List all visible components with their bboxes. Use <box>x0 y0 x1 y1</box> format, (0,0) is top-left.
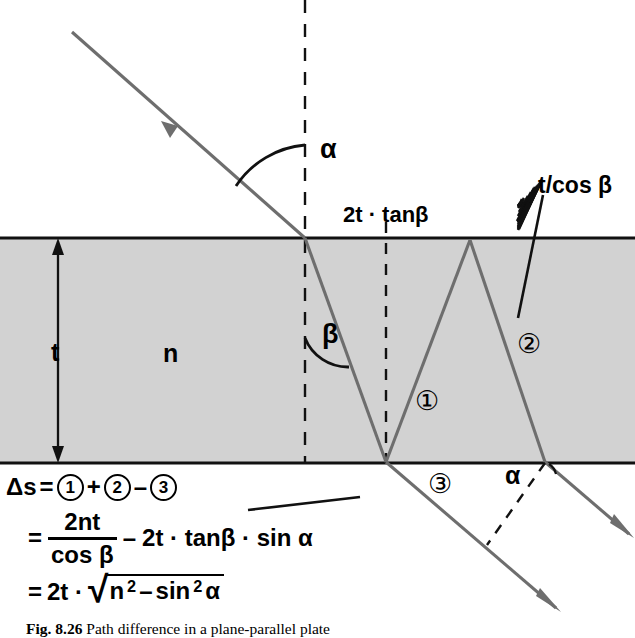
alpha-angle-arc <box>236 145 305 186</box>
radicand-n-exponent: 2 <box>127 577 136 596</box>
equals-sign-2: = <box>28 524 42 552</box>
fraction-bar <box>48 537 117 540</box>
square-root-expression: √ n 2 – sin 2 α <box>88 574 224 606</box>
path-in-plate-label: t/cos β <box>538 172 612 199</box>
exit-alpha-label: α <box>505 461 520 490</box>
circled-two: 2 <box>104 474 131 501</box>
equation-line-1: Δs = 1 + 2 – 3 <box>6 473 177 501</box>
ray-one-label: ① <box>415 385 439 417</box>
radical-sign: √ <box>88 574 108 606</box>
alpha-label: α <box>320 134 337 165</box>
radicand: n 2 – sin 2 α <box>107 574 224 606</box>
incident-ray <box>72 32 305 238</box>
equation-3-prefix: 2t · <box>47 578 83 606</box>
equation-line-3: = 2t · √ n 2 – sin 2 α <box>28 574 224 606</box>
refractive-index-label: n <box>163 339 178 368</box>
plus-sign: + <box>87 473 101 501</box>
transmitted-ray-two <box>545 462 634 538</box>
minus-sign-2: – <box>123 524 136 552</box>
radicand-n: n <box>109 577 124 605</box>
equals-sign-1: = <box>40 473 54 501</box>
figure-root: α β α t n 2t · tanβ t/cos β ① ② ③ Δs = 1… <box>0 0 635 638</box>
lateral-shift-label: 2t · tanβ <box>343 202 429 228</box>
equation-line-2: = 2nt cos β – 2t · tanβ · sin α <box>28 508 313 569</box>
equals-sign-3: = <box>28 578 42 606</box>
minus-sign-1: – <box>134 473 147 501</box>
transmitted-ray-three <box>386 462 561 612</box>
thickness-label: t <box>51 338 59 367</box>
caption-figure-number: Fig. 8.26 <box>26 620 82 637</box>
radicand-minus: – <box>139 577 152 605</box>
fraction-2nt-over-cos-beta: 2nt cos β <box>48 508 117 569</box>
equation-2-rest: 2t · tanβ · sin α <box>142 524 313 552</box>
ray-two-label: ② <box>517 328 541 360</box>
radicand-alpha: α <box>205 577 220 605</box>
fraction-denominator: cos β <box>48 541 117 569</box>
radicand-sin: sin <box>156 577 191 605</box>
circled-one: 1 <box>57 474 84 501</box>
circled-three: 3 <box>150 474 177 501</box>
figure-caption: Fig. 8.26 Path difference in a plane-par… <box>26 620 330 638</box>
caption-text: Path difference in a plane-parallel plat… <box>86 620 330 637</box>
ray-three-label: ③ <box>428 468 452 500</box>
fraction-numerator: 2nt <box>61 508 103 536</box>
beta-label: β <box>322 319 338 350</box>
radicand-sin-exponent: 2 <box>193 577 202 596</box>
delta-s-symbol: Δs <box>6 473 37 501</box>
